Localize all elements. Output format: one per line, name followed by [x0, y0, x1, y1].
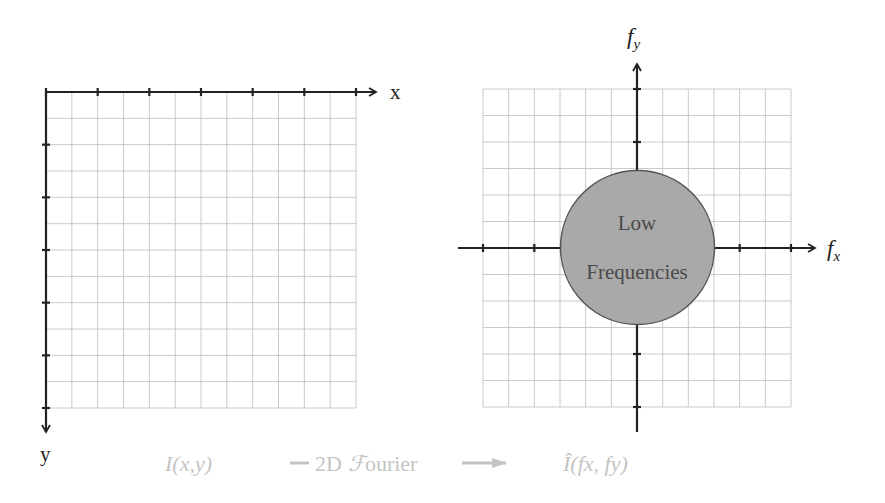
spatial-axis-ticks	[42, 88, 356, 408]
fourier-diagram: x y Low Frequencies fx fy I(x,y) 2Dℱouri…	[0, 0, 885, 503]
spatial-grid	[46, 92, 356, 408]
circle-label-line1: Low	[618, 211, 657, 235]
x-axis-label: x	[390, 80, 401, 104]
frequency-caption: Î(fx, fy)	[562, 451, 628, 476]
fy-axis-label: fy	[627, 24, 640, 52]
frequency-domain-panel: Low Frequencies fx fy	[458, 24, 840, 432]
transform-label: 2Dℱourier	[315, 451, 418, 476]
circle-label-line2: Frequencies	[586, 260, 687, 284]
caption-row: I(x,y) 2Dℱourier Î(fx, fy)	[164, 451, 628, 476]
spatial-domain-panel: x y	[40, 80, 401, 466]
fx-axis-label: fx	[827, 236, 840, 264]
low-frequency-region	[561, 171, 715, 325]
y-axis-label: y	[40, 442, 51, 466]
spatial-caption: I(x,y)	[164, 451, 212, 476]
